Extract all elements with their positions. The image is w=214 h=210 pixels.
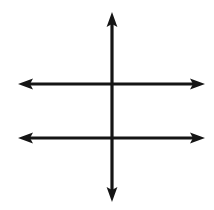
arrow-diagram-svg: Crossed double-headed arrows diagram (0, 0, 214, 210)
canvas-background (0, 0, 214, 210)
diagram-canvas: Crossed double-headed arrows diagram (0, 0, 214, 210)
